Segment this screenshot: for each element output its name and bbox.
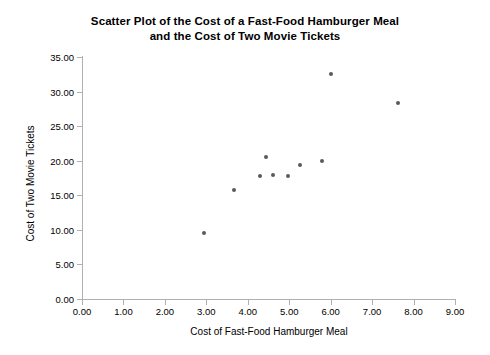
- y-tick-label: 35.00: [30, 52, 74, 63]
- data-point: [329, 72, 333, 76]
- data-point: [298, 163, 302, 167]
- x-tick-label: 4.00: [226, 306, 270, 317]
- data-point: [320, 159, 324, 163]
- data-point: [264, 155, 268, 159]
- data-point: [258, 174, 262, 178]
- x-tick-label: 6.00: [309, 306, 353, 317]
- x-tick-mark: [123, 300, 124, 305]
- x-tick-label: 0.00: [60, 306, 104, 317]
- data-point: [396, 101, 400, 105]
- plot-area: [82, 57, 455, 299]
- scatter-chart: Scatter Plot of the Cost of a Fast-Food …: [0, 0, 490, 355]
- x-tick-label: 5.00: [267, 306, 311, 317]
- y-tick-label: 20.00: [30, 155, 74, 166]
- x-tick-label: 2.00: [143, 306, 187, 317]
- x-tick-mark: [248, 300, 249, 305]
- data-point: [232, 188, 236, 192]
- y-tick-label: 0.00: [30, 294, 74, 305]
- data-point: [271, 173, 275, 177]
- y-axis-title: Cost of Two Movie Tickets: [25, 84, 36, 284]
- y-tick-label: 15.00: [30, 190, 74, 201]
- x-tick-mark: [372, 300, 373, 305]
- y-tick-label: 5.00: [30, 259, 74, 270]
- x-tick-mark: [82, 300, 83, 305]
- y-tick-label: 25.00: [30, 121, 74, 132]
- x-tick-label: 1.00: [101, 306, 145, 317]
- x-axis-line: [82, 299, 456, 300]
- data-point: [202, 231, 206, 235]
- y-tick-label: 10.00: [30, 224, 74, 235]
- x-tick-label: 8.00: [392, 306, 436, 317]
- x-tick-label: 9.00: [433, 306, 477, 317]
- x-tick-label: 7.00: [350, 306, 394, 317]
- x-tick-mark: [165, 300, 166, 305]
- x-tick-mark: [206, 300, 207, 305]
- x-tick-mark: [455, 300, 456, 305]
- x-tick-mark: [331, 300, 332, 305]
- x-tick-mark: [289, 300, 290, 305]
- x-axis-title: Cost of Fast-Food Hamburger Meal: [82, 326, 456, 337]
- x-tick-mark: [414, 300, 415, 305]
- y-tick-label: 30.00: [30, 86, 74, 97]
- data-point: [286, 174, 290, 178]
- x-tick-label: 3.00: [184, 306, 228, 317]
